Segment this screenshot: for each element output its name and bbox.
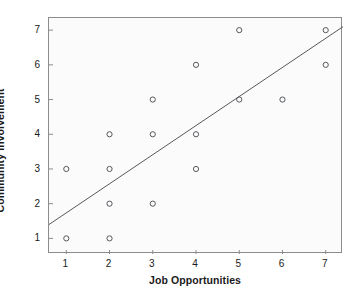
y-tick-label: 4 [14, 128, 40, 139]
y-tick-label: 5 [14, 93, 40, 104]
x-tick-label: 5 [226, 258, 250, 269]
scatter-chart: Community Involvement 1234567 1234567 Jo… [0, 0, 358, 301]
x-tick-label: 6 [269, 258, 293, 269]
x-tick-label: 4 [183, 258, 207, 269]
x-tick-label: 7 [313, 258, 337, 269]
y-tick-label: 3 [14, 162, 40, 173]
regression-line [49, 27, 343, 225]
x-tick-label: 3 [140, 258, 164, 269]
plot-svg [49, 18, 343, 254]
x-tick-label: 1 [53, 258, 77, 269]
x-axis-tick-labels: 1234567 [0, 258, 358, 272]
y-tick-label: 1 [14, 232, 40, 243]
plot-area [48, 17, 342, 253]
x-axis-title: Job Opportunities [48, 274, 342, 286]
data-points [64, 28, 329, 241]
tick-marks [49, 30, 326, 254]
y-tick-label: 2 [14, 197, 40, 208]
y-tick-label: 6 [14, 58, 40, 69]
y-axis-tick-labels: 1234567 [10, 0, 40, 301]
y-tick-label: 7 [14, 24, 40, 35]
x-tick-label: 2 [97, 258, 121, 269]
